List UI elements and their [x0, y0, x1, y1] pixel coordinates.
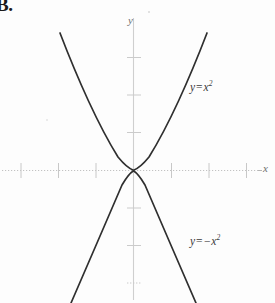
figure-container: B. y x y=x2 y=−x2: [0, 0, 275, 303]
lower-curve-equation-label: y=−x2: [190, 235, 220, 247]
x-axis-group: [2, 163, 258, 178]
lower-eq-expression: −x: [204, 235, 217, 247]
y-axis-group: [127, 18, 141, 300]
x-axis-label: x: [263, 162, 268, 174]
lower-eq-exponent: 2: [216, 233, 220, 242]
scan-speck: [148, 11, 150, 13]
parabolas-plot: [0, 0, 275, 303]
upper-eq-exponent: 2: [209, 79, 213, 88]
upper-eq-sign: =: [195, 81, 204, 93]
scan-speck: [46, 119, 48, 121]
upper-curve-equation-label: y=x2: [190, 81, 212, 93]
y-axis-label: y: [128, 14, 133, 26]
lower-eq-sign: =: [195, 235, 204, 247]
